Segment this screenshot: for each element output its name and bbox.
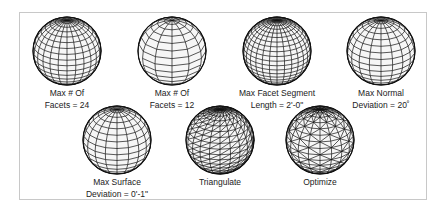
caption-line2: Deviation = 0'-1": [67, 190, 167, 200]
caption-line1: Max # Of: [17, 89, 117, 99]
sphere-triangulated-icon: [183, 104, 257, 176]
sphere-optimize: Optimize: [270, 104, 370, 188]
sphere-coarse-grid-icon: [135, 15, 209, 87]
sphere-facets-12: Max # Of Facets = 12: [122, 15, 222, 110]
sphere-fine-grid-icon: [30, 15, 104, 87]
sphere-medium-grid-icon: [80, 104, 154, 176]
sphere-triangulate: Triangulate: [170, 104, 270, 188]
sphere-max-normal-deviation: Max Normal Deviation = 20˚: [331, 15, 431, 110]
sphere-dense-grid-icon: [240, 15, 314, 87]
caption-line1: Triangulate: [170, 178, 270, 188]
caption-line1: Max Normal: [331, 89, 431, 99]
sphere-max-facet-segment: Max Facet Segment Length = 2'-0": [227, 15, 327, 110]
caption-line1: Optimize: [270, 178, 370, 188]
sphere-max-surface-deviation: Max Surface Deviation = 0'-1": [67, 104, 167, 199]
sphere-optimized-icon: [283, 104, 357, 176]
caption-line1: Max # Of: [122, 89, 222, 99]
caption-line1: Max Facet Segment: [227, 89, 327, 99]
sphere-facets-24: Max # Of Facets = 24: [17, 15, 117, 110]
caption-line1: Max Surface: [67, 178, 167, 188]
sphere-medium-grid-icon: [344, 15, 418, 87]
